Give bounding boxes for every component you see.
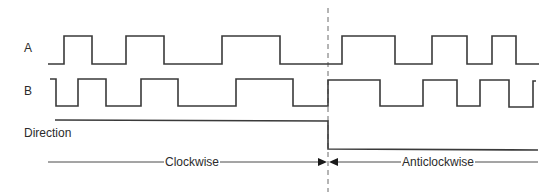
anticlockwise-label: Anticlockwise (401, 155, 475, 169)
direction-label: Direction (24, 126, 71, 140)
direction-waveform (55, 120, 538, 150)
arrowhead-right-icon (318, 158, 327, 166)
timing-diagram (0, 0, 559, 195)
signal-b-waveform (50, 79, 536, 107)
signal-a-waveform (48, 36, 539, 64)
clockwise-label: Clockwise (164, 155, 220, 169)
signal-a-label: A (24, 41, 32, 55)
arrowhead-left-icon (329, 158, 338, 166)
signal-b-label: B (24, 84, 32, 98)
